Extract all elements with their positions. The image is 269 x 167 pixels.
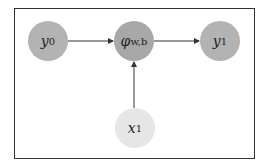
node-y1-sub: 1 xyxy=(221,36,227,47)
node-y0-sub: 0 xyxy=(49,36,55,47)
node-x1-sub: 1 xyxy=(136,123,142,134)
node-phi-label: φ xyxy=(121,33,131,49)
node-x1: x1 xyxy=(115,108,155,148)
node-y1-label: y xyxy=(213,33,221,49)
node-phi: φw,b xyxy=(114,21,154,61)
node-y1: y1 xyxy=(200,21,240,61)
node-y0: y0 xyxy=(28,21,68,61)
node-phi-sub: w,b xyxy=(130,36,147,47)
node-y0-label: y xyxy=(41,33,49,49)
node-x1-label: x xyxy=(128,120,136,136)
